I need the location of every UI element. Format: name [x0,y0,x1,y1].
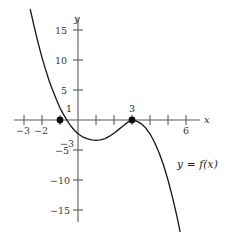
point-label-three: 3 [129,104,135,114]
y-tick-label-1: 1 [66,104,72,114]
plot-canvas [0,0,231,232]
x-tick-label-6: 6 [183,126,189,136]
x-tick-label-neg2: −2 [34,126,48,136]
y-tick-label-15: 15 [55,26,67,36]
y-axis-label: y [74,14,80,24]
y-tick-label-10: 10 [55,56,67,66]
x-axis-label: x [204,115,210,125]
y-tick-label-neg5: −5 [55,146,69,156]
function-curve [30,10,185,232]
curve-equation-label: y = f(x) [177,159,218,170]
x-tick-label-neg3: −3 [16,126,30,136]
marked-point-root-three [129,117,136,124]
function-graph-figure: x y −3 −2 6 15 10 5 1 −3 −5 −10 −15 3 y … [0,0,231,232]
y-tick-label-5: 5 [61,86,67,96]
y-tick-label-neg15: −15 [50,206,70,216]
marked-point-root-negative-one [57,117,64,124]
y-tick-label-neg10: −10 [50,176,70,186]
